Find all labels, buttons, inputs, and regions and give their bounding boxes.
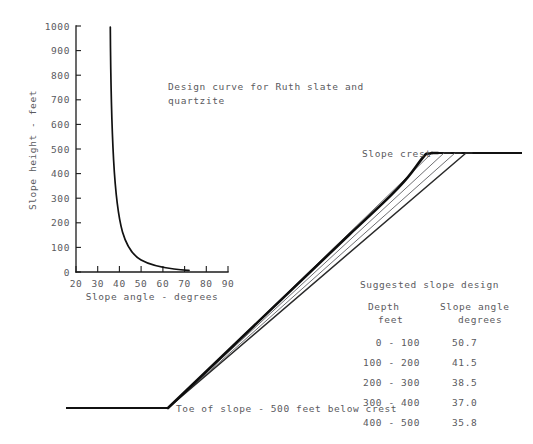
svg-text:50: 50	[135, 278, 148, 289]
crest-label: Slope crest	[362, 148, 432, 159]
table-cell-depth: 300 - 400	[363, 397, 420, 408]
table-row: 400 - 500 35.8	[363, 417, 477, 428]
svg-text:40: 40	[113, 278, 126, 289]
svg-text:20: 20	[70, 278, 83, 289]
table-cell-angle: 50.7	[452, 337, 477, 348]
table-cell-angle: 37.0	[452, 397, 477, 408]
svg-text:800: 800	[51, 70, 70, 81]
table-cell-depth: 100 - 200	[363, 357, 420, 368]
svg-text:90: 90	[222, 278, 235, 289]
table-cell-angle: 35.8	[452, 417, 477, 428]
inset-y-axis-title: Slope height - feet	[27, 90, 38, 210]
design-curve-annotation-line1: Design curve for Ruth slate and	[168, 81, 364, 92]
svg-text:900: 900	[51, 45, 70, 56]
svg-text:60: 60	[157, 278, 170, 289]
table-row: 0 - 100 50.7	[376, 337, 478, 348]
svg-text:100: 100	[51, 242, 70, 253]
table-row: 200 - 300 38.5	[363, 377, 477, 388]
svg-text:600: 600	[51, 119, 70, 130]
technical-figure: 1000 900 800 700 600 500 400 300 200 100…	[0, 0, 533, 444]
table-row: 100 - 200 41.5	[363, 357, 477, 368]
table-title: Suggested slope design	[360, 279, 499, 290]
table-header-angle-line1: Slope angle	[440, 301, 510, 312]
table-header-depth-line2: feet	[378, 314, 403, 325]
table-header-angle-line2: degrees	[458, 314, 502, 325]
design-curve-path	[110, 27, 189, 270]
figure-root: 1000 900 800 700 600 500 400 300 200 100…	[0, 0, 533, 444]
svg-text:70: 70	[178, 278, 191, 289]
svg-text:200: 200	[51, 217, 70, 228]
inset-x-axis-title: Slope angle - degrees	[86, 291, 219, 302]
svg-text:700: 700	[51, 94, 70, 105]
inset-chart: 1000 900 800 700 600 500 400 300 200 100…	[27, 21, 364, 303]
svg-text:500: 500	[51, 144, 70, 155]
svg-text:300: 300	[51, 193, 70, 204]
svg-text:0: 0	[64, 267, 70, 278]
table-header-depth-line1: Depth	[368, 301, 400, 312]
inset-y-tick-labels: 1000 900 800 700 600 500 400 300 200 100…	[45, 21, 70, 278]
svg-text:80: 80	[200, 278, 213, 289]
inset-y-ticks	[76, 26, 81, 272]
suggested-slope-design-table: Suggested slope design Depth feet Slope …	[360, 279, 510, 428]
svg-text:1000: 1000	[45, 21, 70, 32]
svg-text:400: 400	[51, 168, 70, 179]
table-cell-depth: 200 - 300	[363, 377, 420, 388]
table-row: 300 - 400 37.0	[363, 397, 477, 408]
table-cell-angle: 41.5	[452, 357, 477, 368]
table-cell-angle: 38.5	[452, 377, 477, 388]
table-cell-depth: 0 - 100	[376, 337, 420, 348]
table-cell-depth: 400 - 500	[363, 417, 420, 428]
design-curve-annotation-line2: quartzite	[168, 95, 225, 106]
inset-x-ticks	[76, 266, 228, 272]
inset-x-tick-labels: 20 30 40 50 60 70 80 90	[70, 278, 235, 289]
svg-text:30: 30	[91, 278, 104, 289]
